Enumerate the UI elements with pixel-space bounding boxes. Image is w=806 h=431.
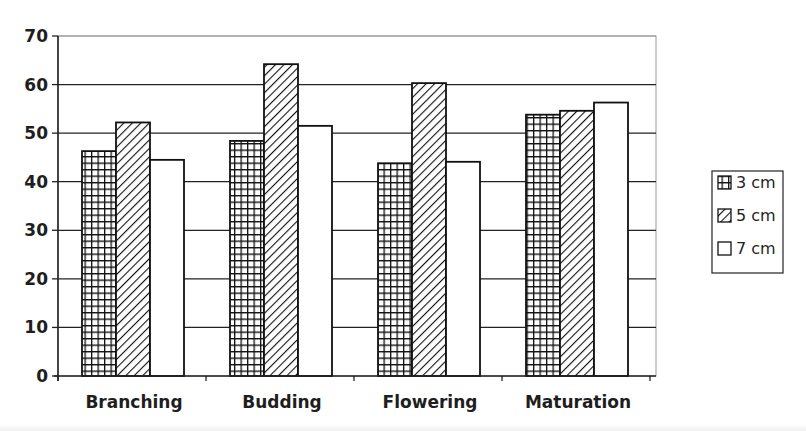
hatch-pattern-swatch-icon [718,209,731,222]
x-category-label: Budding [242,392,322,412]
bar-3cm-branching [82,151,116,376]
x-axis: BranchingBuddingFloweringMaturation [54,376,656,412]
legend-label: 3 cm [736,173,776,192]
plot-area: 010203040506070 BranchingBuddingFlowerin… [24,26,656,412]
bar-5cm-flowering [412,83,446,376]
white-swatch-icon [718,242,731,255]
bar-7cm-budding [298,126,332,376]
x-category-label: Branching [85,392,182,412]
bar-chart: 010203040506070 BranchingBuddingFlowerin… [0,0,806,431]
y-axis: 010203040506070 [24,26,58,386]
x-category-label: Flowering [383,392,478,412]
bar-3cm-flowering [378,163,412,376]
y-tick-label: 10 [24,317,48,337]
legend-item: 3 cm [718,173,776,192]
y-tick-label: 40 [24,172,48,192]
bar-5cm-branching [116,122,150,376]
y-tick-label: 70 [24,26,48,46]
bar-3cm-budding [230,141,264,376]
legend-item: 7 cm [718,239,776,258]
legend-item: 5 cm [718,206,776,225]
bar-7cm-maturation [594,103,628,376]
bar-7cm-flowering [446,162,480,376]
y-tick-label: 0 [36,366,48,386]
y-tick-label: 50 [24,123,48,143]
bar-5cm-budding [264,64,298,376]
x-category-label: Maturation [525,392,631,412]
bar-7cm-branching [150,160,184,376]
bar-3cm-maturation [526,115,560,376]
legend-label: 5 cm [736,206,776,225]
y-tick-label: 20 [24,269,48,289]
legend-label: 7 cm [736,239,776,258]
bar-5cm-maturation [560,111,594,376]
y-tick-label: 30 [24,220,48,240]
grid-pattern-swatch-icon [718,176,731,189]
legend: 3 cm5 cm7 cm [712,171,783,273]
bar-series [82,64,628,376]
cropped-caption-strip [0,424,806,431]
y-tick-label: 60 [24,75,48,95]
